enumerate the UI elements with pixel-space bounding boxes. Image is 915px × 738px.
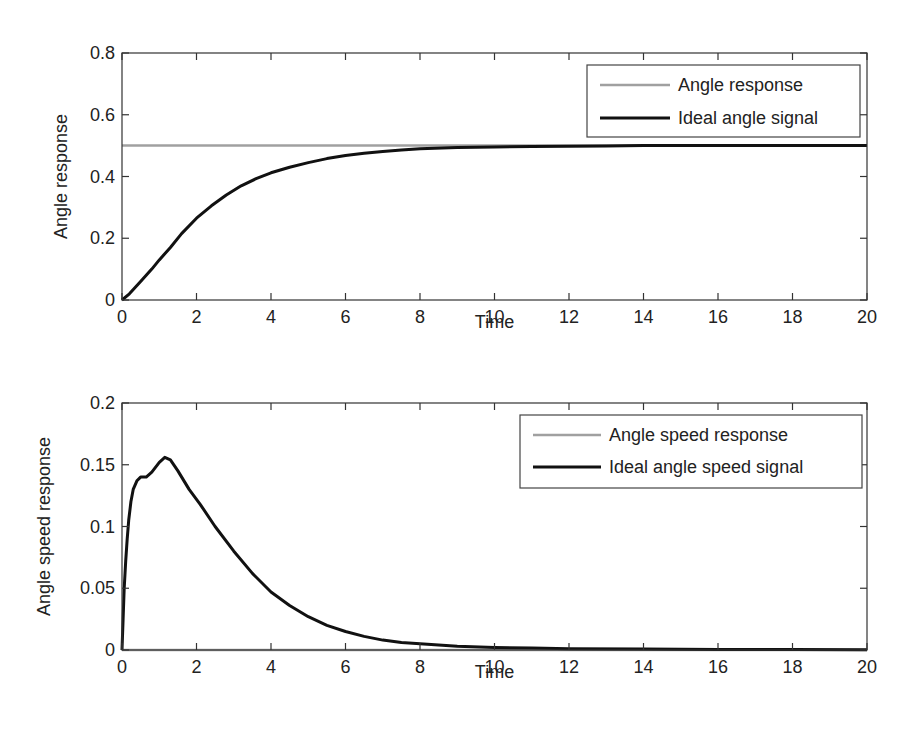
legend: Angle speed response Ideal angle speed s…: [520, 415, 862, 488]
figure: 02468101214161820 00.20.40.60.8 Time Ang…: [0, 0, 915, 738]
x-tick-label: 4: [266, 307, 276, 327]
legend-label-angle-speed-response: Angle speed response: [609, 425, 788, 445]
x-tick-label: 8: [415, 307, 425, 327]
x-tick-label: 12: [559, 307, 579, 327]
y-tick-labels: 00.20.40.60.8: [90, 43, 115, 310]
x-axis-label: Time: [475, 662, 514, 682]
y-tick-label: 0.15: [80, 455, 115, 475]
y-tick-label: 0.6: [90, 105, 115, 125]
y-tick-label: 0.8: [90, 43, 115, 63]
x-tick-label: 4: [266, 657, 276, 677]
legend-label-angle-response: Angle response: [678, 75, 803, 95]
y-tick-label: 0.05: [80, 578, 115, 598]
y-tick-label: 0: [105, 640, 115, 660]
x-tick-label: 14: [633, 657, 653, 677]
legend-label-ideal-angle-signal: Ideal angle signal: [678, 108, 818, 128]
y-tick-label: 0.2: [90, 393, 115, 413]
x-tick-label: 20: [857, 307, 877, 327]
y-axis-label: Angle speed response: [34, 437, 54, 616]
x-tick-label: 14: [633, 307, 653, 327]
x-tick-label: 6: [340, 657, 350, 677]
x-tick-label: 8: [415, 657, 425, 677]
x-tick-label: 20: [857, 657, 877, 677]
series-line: [122, 146, 867, 300]
plot-lines: [122, 146, 867, 300]
x-tick-label: 2: [191, 307, 201, 327]
x-tick-label: 16: [708, 307, 728, 327]
angle-speed-response-plot: 02468101214161820 00.050.10.150.2 Time A…: [34, 393, 877, 682]
y-tick-label: 0: [105, 290, 115, 310]
legend-label-ideal-angle-speed-signal: Ideal angle speed signal: [609, 457, 803, 477]
x-tick-label: 16: [708, 657, 728, 677]
x-tick-label: 18: [782, 307, 802, 327]
y-axis-label: Angle response: [51, 114, 71, 239]
y-tick-label: 0.2: [90, 228, 115, 248]
x-axis-label: Time: [475, 312, 514, 332]
x-tick-label: 12: [559, 657, 579, 677]
angle-response-plot: 02468101214161820 00.20.40.60.8 Time Ang…: [51, 43, 877, 332]
x-tick-label: 6: [340, 307, 350, 327]
x-tick-label: 2: [191, 657, 201, 677]
y-tick-label: 0.1: [90, 517, 115, 537]
legend: Angle response Ideal angle signal: [587, 65, 860, 137]
x-tick-label: 0: [117, 307, 127, 327]
x-tick-label: 18: [782, 657, 802, 677]
y-tick-label: 0.4: [90, 167, 115, 187]
y-tick-labels: 00.050.10.150.2: [80, 393, 115, 660]
x-tick-label: 0: [117, 657, 127, 677]
